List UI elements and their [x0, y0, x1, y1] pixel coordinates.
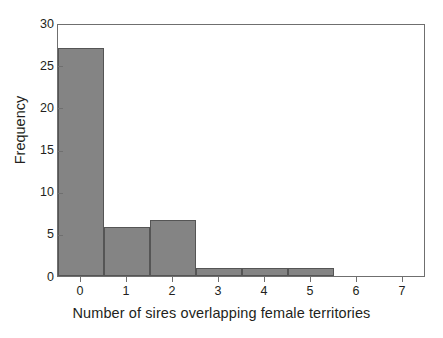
bar — [104, 227, 150, 276]
y-axis-tick — [57, 151, 63, 152]
y-axis-tick — [57, 108, 63, 109]
y-axis-tick — [57, 66, 63, 67]
x-axis-tick-label: 6 — [341, 285, 371, 298]
x-axis-tick-label: 3 — [203, 285, 233, 298]
bar — [196, 268, 242, 276]
y-axis-tick — [57, 193, 63, 194]
bar-series — [58, 25, 424, 276]
y-axis-tick — [57, 235, 63, 236]
y-axis-title: Frequency — [12, 60, 28, 200]
x-axis-tick — [356, 277, 357, 282]
x-axis-tick — [264, 277, 265, 282]
histogram-figure: 051015202530 01234567 Number of sires ov… — [0, 0, 443, 338]
x-axis-tick-label: 5 — [295, 285, 325, 298]
bar — [288, 268, 334, 276]
bar — [242, 268, 288, 276]
x-axis-tick-label: 7 — [387, 285, 417, 298]
x-axis-tick-label: 4 — [249, 285, 279, 298]
y-axis-tick-label: 0 — [14, 271, 54, 284]
x-axis-tick — [310, 277, 311, 282]
x-axis-tick — [402, 277, 403, 282]
x-axis-tick-label: 2 — [157, 285, 187, 298]
x-axis-tick — [172, 277, 173, 282]
x-axis-tick-label: 1 — [111, 285, 141, 298]
bar — [58, 48, 104, 276]
x-axis-tick-label: 0 — [65, 285, 95, 298]
bar — [150, 220, 196, 277]
x-axis-title: Number of sires overlapping female terri… — [0, 305, 443, 321]
y-axis-tick-label: 5 — [14, 228, 54, 241]
y-axis-tick-label: 30 — [14, 18, 54, 31]
x-axis-tick — [80, 277, 81, 282]
x-axis-tick — [126, 277, 127, 282]
plot-area — [57, 24, 425, 277]
x-axis-tick — [218, 277, 219, 282]
